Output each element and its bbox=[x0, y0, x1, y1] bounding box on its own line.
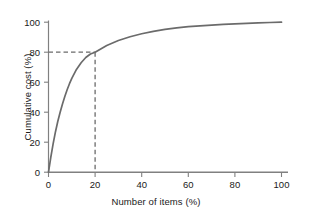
x-tick-label-0: 0 bbox=[36, 179, 62, 190]
x-tick-label-60: 60 bbox=[175, 179, 201, 190]
pareto-chart-figure: 0 20 40 60 80 100 0 20 40 60 80 100 Numb… bbox=[0, 0, 312, 219]
cumulative-cost-curve bbox=[49, 22, 282, 172]
x-tick-label-80: 80 bbox=[222, 179, 248, 190]
y-axis-title: Cumulative cost (%) bbox=[20, 11, 36, 183]
y-axis-ticks bbox=[44, 22, 49, 172]
x-tick-label-40: 40 bbox=[129, 179, 155, 190]
x-tick-label-100: 100 bbox=[269, 179, 295, 190]
x-tick-label-20: 20 bbox=[82, 179, 108, 190]
x-axis-title: Number of items (%) bbox=[0, 196, 312, 207]
y-axis-title-wrap: Cumulative cost (%) bbox=[20, 11, 36, 183]
